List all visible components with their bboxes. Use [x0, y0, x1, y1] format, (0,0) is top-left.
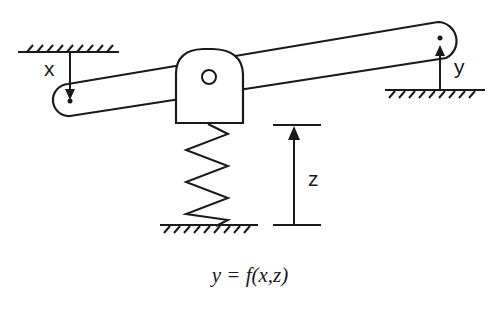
spring: [186, 124, 228, 226]
label-y: y: [454, 55, 465, 78]
label-x: x: [44, 57, 55, 80]
pivot-pin: [202, 70, 216, 84]
label-z: z: [308, 167, 319, 190]
ground-bottom: [160, 225, 258, 233]
ground-right: [385, 90, 485, 98]
equation: y = f(x,z): [210, 263, 289, 287]
lever-arm: [53, 22, 457, 116]
ground-left-top: [18, 45, 119, 52]
lever-mechanism-diagram: x z y: [0, 0, 501, 314]
pivot-block: [176, 49, 243, 123]
